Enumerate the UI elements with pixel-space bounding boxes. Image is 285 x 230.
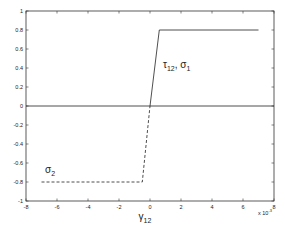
y-tick-label: -0.6 — [14, 160, 23, 166]
y-tick-label: 0.2 — [15, 84, 23, 90]
x-axis-multiplier: x 10-3 — [258, 208, 273, 216]
y-tick-label: 0.8 — [15, 27, 23, 33]
chart: -8-6-4-202468-1-0.8-0.6-0.4-0.200.20.40.… — [0, 0, 285, 230]
y-tick-label: -0.8 — [14, 179, 23, 185]
x-tick-label: -8 — [24, 204, 29, 210]
annotation-sigma2: σ2 — [45, 164, 55, 177]
x-tick-label: 8 — [272, 204, 275, 210]
y-tick-label: -1 — [18, 198, 23, 204]
series-line — [42, 106, 151, 182]
y-tick-label: -0.2 — [14, 122, 23, 128]
annotation-tau12-sigma1: τ12, σ1 — [163, 59, 190, 72]
x-tick-label: 2 — [179, 204, 182, 210]
x-axis-label: γ12 — [139, 211, 152, 224]
x-tick-label: -6 — [55, 204, 60, 210]
y-tick-label: 0.6 — [15, 46, 23, 52]
data-series — [26, 30, 274, 182]
x-tick-label: 4 — [210, 204, 213, 210]
x-tick-label: 0 — [148, 204, 151, 210]
y-tick-label: -0.4 — [14, 141, 23, 147]
y-tick-label: 0 — [20, 103, 23, 109]
x-tick-label: 6 — [241, 204, 244, 210]
y-tick-label: 0.4 — [15, 65, 23, 71]
axis-ticks: -8-6-4-202468-1-0.8-0.6-0.4-0.200.20.40.… — [14, 8, 276, 210]
x-tick-label: -2 — [117, 204, 122, 210]
y-tick-label: 1 — [20, 8, 23, 14]
x-tick-label: -4 — [86, 204, 91, 210]
